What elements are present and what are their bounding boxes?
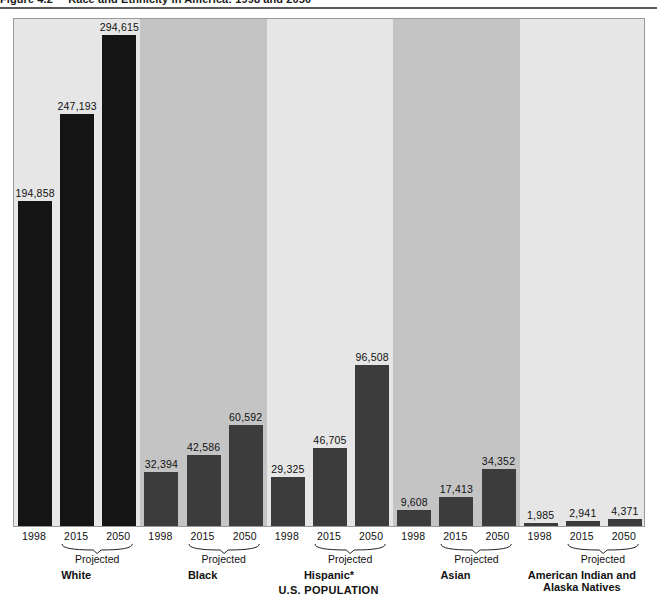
bar-value-label: 42,586 [187,441,220,453]
bar-value-label: 32,394 [145,458,178,470]
bar: 34,352 [482,469,516,526]
chart-plot-area: 194,858247,193294,61532,39442,58660,5922… [13,18,645,527]
panel-band-american [520,19,645,526]
bar-value-label: 60,592 [229,411,262,423]
bar: 1,985 [524,523,558,526]
year-tick-label: 1998 [266,530,308,542]
group-name-label: White [13,569,139,581]
bar: 4,371 [608,519,642,526]
bar-value-label: 4,371 [611,505,638,517]
axis-group-black: 199820152050ProjectedBlack [139,527,265,610]
year-tick-label: 2015 [55,530,97,542]
group-name-label: Asian [392,569,518,581]
year-tick-label: 2050 [224,530,266,542]
projected-label: Projected [308,553,392,565]
figure-caption: Figure 4.2 Race and Ethnicity in America… [0,0,657,6]
bar-value-label: 1,985 [527,509,554,521]
year-tick-label: 2015 [561,530,603,542]
bar-value-label: 29,325 [271,463,304,475]
group-name-label: Black [139,569,265,581]
bar: 9,608 [397,510,431,526]
bar-value-label: 2,941 [569,507,596,519]
year-tick-label: 2015 [182,530,224,542]
bar-value-label: 46,705 [313,434,346,446]
year-tick-label: 2050 [97,530,139,542]
bar-value-label: 9,608 [401,496,428,508]
bar-value-label: 17,413 [440,483,473,495]
bar: 17,413 [439,497,473,526]
bar-value-label: 294,615 [100,21,139,33]
x-axis-group-labels: 199820152050ProjectedWhite199820152050Pr… [13,527,645,610]
axis-group-hispanic: 199820152050ProjectedHispanic* [266,527,392,610]
year-tick-label: 2050 [476,530,518,542]
x-axis-title: U.S. POPULATION [0,584,657,596]
projected-label: Projected [55,553,139,565]
projected-label: Projected [561,553,645,565]
year-tick-label: 1998 [139,530,181,542]
bar: 247,193 [60,114,94,526]
projected-label: Projected [182,553,266,565]
caption-divider [0,7,657,9]
axis-group-american: 199820152050ProjectedAmerican Indian and… [519,527,645,610]
bar: 42,586 [187,455,221,526]
bar-value-label: 34,352 [482,455,515,467]
bar: 194,858 [18,201,52,526]
bar: 60,592 [229,425,263,526]
bar: 32,394 [144,472,178,526]
axis-group-white: 199820152050ProjectedWhite [13,527,139,610]
bar: 46,705 [313,448,347,526]
year-tick-label: 1998 [519,530,561,542]
year-tick-label: 1998 [392,530,434,542]
year-tick-label: 2015 [434,530,476,542]
bar: 2,941 [566,521,600,526]
bar: 294,615 [102,35,136,526]
bar: 29,325 [271,477,305,526]
year-tick-label: 2050 [350,530,392,542]
year-tick-label: 2050 [603,530,645,542]
figure-title: Race and Ethnicity in America: 1998 and … [68,0,311,5]
panel-band-asian [393,19,519,526]
projected-label: Projected [434,553,518,565]
year-tick-label: 1998 [13,530,55,542]
axis-group-asian: 199820152050ProjectedAsian [392,527,518,610]
bar-value-label: 96,508 [355,351,388,363]
bar-value-label: 194,858 [15,187,54,199]
group-name-label: Hispanic* [266,569,392,581]
figure-number: Figure 4.2 [0,0,53,5]
bar-value-label: 247,193 [58,100,97,112]
year-tick-label: 2015 [308,530,350,542]
bar: 96,508 [355,365,389,526]
